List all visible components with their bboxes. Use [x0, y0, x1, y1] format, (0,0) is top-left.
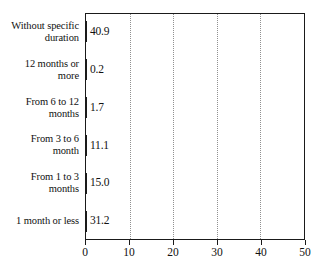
category-label-line: From 1 to 3 [0, 171, 79, 183]
category-label-without-specific-duration: Without specific duration [0, 20, 79, 44]
bar-value-label: 11.1 [87, 140, 109, 152]
category-label-line: 12 months or [0, 58, 79, 70]
category-label-line: months [0, 183, 79, 195]
category-label-from-1-to-3-months: From 1 to 3 months [0, 171, 79, 195]
category-axis-labels: Without specific duration 12 months or m… [0, 13, 82, 240]
bar-row: 1.7 [85, 89, 104, 127]
bar-row: 15.0 [85, 164, 109, 202]
bars-layer: 40.9 0.2 1.7 11.1 15.0 31.2 [85, 13, 305, 240]
category-label-line: 1 month or less [0, 215, 79, 227]
bar-row: 11.1 [85, 127, 109, 165]
x-tick-30 [217, 240, 218, 245]
category-label-line: From 3 to 6 [0, 133, 79, 145]
category-label-line: month [0, 145, 79, 157]
bar-value-label: 15.0 [87, 177, 109, 189]
category-label-line: months [0, 108, 79, 120]
category-label-from-6-to-12-months: From 6 to 12 months [0, 96, 79, 120]
x-tick-label: 10 [123, 247, 135, 259]
bar-value-label: 0.2 [87, 64, 104, 76]
x-axis: 0 10 20 30 40 50 [85, 240, 305, 270]
bar-value-label: 31.2 [87, 215, 109, 227]
category-label-line: From 6 to 12 [0, 96, 79, 108]
x-tick-0 [85, 240, 86, 245]
bar-row: 31.2 [85, 202, 109, 240]
x-tick-label: 40 [255, 247, 267, 259]
x-tick-label: 30 [211, 247, 223, 259]
x-tick-10 [129, 240, 130, 245]
category-label-line: Without specific [0, 20, 79, 32]
bar-value-label: 40.9 [87, 26, 109, 38]
category-label-line: duration [0, 32, 79, 44]
x-tick-20 [173, 240, 174, 245]
bar-value-label: 1.7 [87, 102, 104, 114]
x-tick-40 [261, 240, 262, 245]
x-tick-50 [305, 240, 306, 245]
horizontal-bar-chart: 40.9 0.2 1.7 11.1 15.0 31.2 Without spec… [0, 0, 322, 276]
category-label-1-month-or-less: 1 month or less [0, 215, 79, 227]
x-tick-label: 20 [167, 247, 179, 259]
category-label-from-3-to-6-month: From 3 to 6 month [0, 133, 79, 157]
x-tick-label: 0 [82, 247, 88, 259]
category-label-12-months-or-more: 12 months or more [0, 58, 79, 82]
bar-row: 0.2 [85, 51, 104, 89]
bar-row: 40.9 [85, 13, 109, 51]
category-label-line: more [0, 70, 79, 82]
x-tick-label: 50 [299, 247, 311, 259]
